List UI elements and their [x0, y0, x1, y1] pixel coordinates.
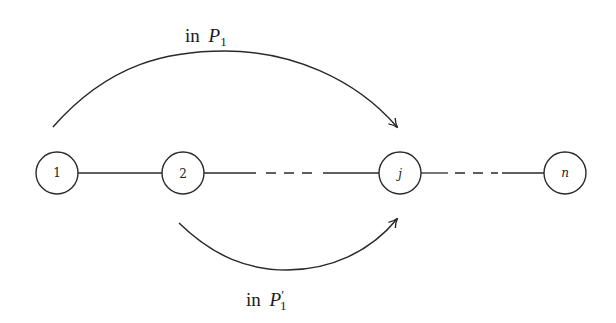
node-1-label: 1 [53, 166, 61, 180]
node-n-label: n [561, 166, 569, 180]
node-n: n [544, 152, 586, 194]
bottom-arc-label-prefix: in [246, 289, 266, 310]
node-j: j [379, 152, 421, 194]
top-arc-label: in P1 [185, 25, 227, 49]
top-arc-label-math: P [208, 25, 221, 46]
bottom-arc-label-sub: 1 [280, 298, 287, 313]
node-1: 1 [36, 152, 78, 194]
top-arc-arrow [53, 51, 397, 127]
top-arc-label-prefix: in [185, 25, 205, 46]
node-2: 2 [162, 152, 204, 194]
node-2-label: 2 [179, 167, 187, 181]
path-graph-diagram: 1 2 j n in P1 in P′1 [0, 0, 616, 323]
top-arc-label-sub: 1 [220, 34, 227, 49]
bottom-arc-label: in P′1 [246, 287, 286, 313]
bottom-arc-arrow [179, 219, 397, 270]
